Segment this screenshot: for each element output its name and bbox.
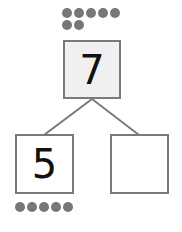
bond-lines: [0, 0, 182, 232]
left-bond-line: [44, 99, 92, 135]
dot-icon: [27, 202, 37, 212]
dot-icon: [51, 202, 61, 212]
dot-icon: [63, 202, 73, 212]
dot-icon: [15, 202, 25, 212]
part-box-right[interactable]: [110, 134, 169, 194]
dot-icon: [39, 202, 49, 212]
part-left-value: 5: [32, 141, 57, 187]
right-bond-line: [92, 99, 139, 135]
whole-box: 7: [63, 40, 121, 99]
whole-value: 7: [79, 47, 104, 93]
part-box-left: 5: [15, 134, 74, 194]
